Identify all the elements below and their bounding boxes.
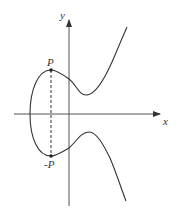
curve-oval-component (30, 70, 69, 156)
point-p-label: P (46, 56, 54, 68)
x-axis-label: x (162, 115, 168, 127)
point-p (49, 68, 53, 72)
y-axis-label: y (59, 9, 65, 21)
curve-upper-branch (69, 27, 127, 95)
elliptic-curve-diagram: x y P -P (0, 0, 179, 216)
curve-lower-branch (69, 132, 126, 201)
point-neg-p-label: -P (44, 158, 55, 170)
